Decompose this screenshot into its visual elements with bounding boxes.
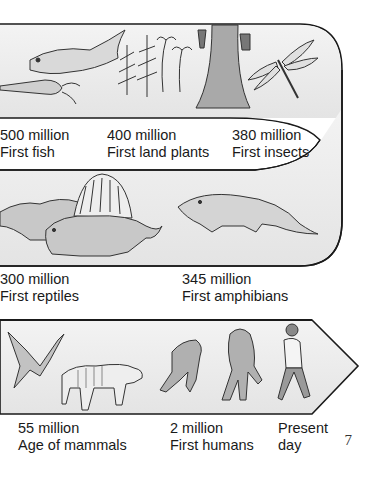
entry-event: First reptiles — [0, 288, 79, 305]
timeline-page: 500 million First fish 400 million First… — [0, 0, 374, 485]
entry-event: First fish — [0, 144, 69, 161]
timeline-entry-first-insects: 380 million First insects — [232, 127, 309, 161]
entry-age: Present — [278, 420, 328, 437]
timeline-entry-age-of-mammals: 55 million Age of mammals — [18, 420, 127, 454]
entry-age: 55 million — [18, 420, 127, 437]
timeline-entry-present-day: Present day — [278, 420, 328, 454]
entry-event: First humans — [170, 437, 254, 454]
entry-age: 345 million — [182, 271, 288, 288]
entry-event: Age of mammals — [18, 437, 127, 454]
entry-event: First amphibians — [182, 288, 288, 305]
timeline-entry-first-amphibians: 345 million First amphibians — [182, 271, 288, 305]
entry-event: First land plants — [107, 144, 209, 161]
timeline-band — [0, 0, 374, 485]
entry-age: 300 million — [0, 271, 79, 288]
entry-age: 500 million — [0, 127, 69, 144]
entry-age: 380 million — [232, 127, 309, 144]
entry-event: day — [278, 437, 328, 454]
timeline-entry-first-fish: 500 million First fish — [0, 127, 69, 161]
entry-age: 400 million — [107, 127, 209, 144]
timeline-entry-first-land-plants: 400 million First land plants — [107, 127, 209, 161]
entry-event: First insects — [232, 144, 309, 161]
entry-age: 2 million — [170, 420, 254, 437]
timeline-entry-first-reptiles: 300 million First reptiles — [0, 271, 79, 305]
timeline-entry-first-humans: 2 million First humans — [170, 420, 254, 454]
page-number: 7 — [345, 432, 353, 449]
